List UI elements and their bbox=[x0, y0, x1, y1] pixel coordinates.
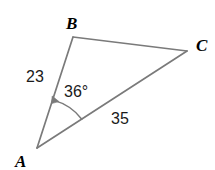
angle-label-a: 36° bbox=[64, 83, 88, 100]
side-bc bbox=[73, 37, 187, 51]
angle-arc-a bbox=[54, 100, 82, 119]
vertex-label-c: C bbox=[196, 36, 208, 55]
side-label-ac: 35 bbox=[111, 110, 129, 127]
vertex-label-b: B bbox=[65, 14, 77, 33]
vertex-label-a: A bbox=[14, 152, 26, 170]
side-ac bbox=[37, 51, 187, 148]
angle-arrowhead-icon bbox=[51, 96, 59, 104]
triangle-canvas: A B C 23 35 36° bbox=[0, 0, 215, 170]
geometry-figure: A B C 23 35 36° bbox=[0, 0, 215, 170]
triangle-outline bbox=[37, 37, 187, 148]
side-label-ab: 23 bbox=[26, 68, 44, 85]
